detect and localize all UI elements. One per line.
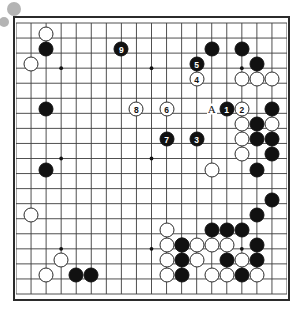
black-stone[interactable] [39, 42, 54, 57]
white-stone[interactable] [189, 237, 204, 252]
black-stone[interactable] [249, 132, 264, 147]
white-stone[interactable] [234, 117, 249, 132]
white-stone[interactable] [234, 147, 249, 162]
go-board[interactable]: 123456789A [16, 19, 287, 298]
black-stone[interactable] [174, 237, 189, 252]
white-stone[interactable] [249, 267, 264, 282]
white-stone[interactable] [24, 57, 39, 72]
black-stone[interactable] [249, 207, 264, 222]
white-stone[interactable] [204, 267, 219, 282]
white-stone[interactable] [159, 237, 174, 252]
black-stone[interactable] [204, 222, 219, 237]
white-stone[interactable] [189, 252, 204, 267]
black-stone[interactable] [249, 237, 264, 252]
black-stone[interactable] [249, 252, 264, 267]
black-stone[interactable] [39, 102, 54, 117]
black-stone[interactable] [84, 267, 99, 282]
white-stone[interactable] [159, 267, 174, 282]
black-stone[interactable] [264, 132, 279, 147]
move-stone-8[interactable]: 8 [129, 102, 144, 117]
white-stone[interactable] [234, 132, 249, 147]
captured-stone-2 [0, 17, 9, 27]
white-stone[interactable] [234, 252, 249, 267]
black-stone[interactable] [69, 267, 84, 282]
white-stone[interactable] [264, 117, 279, 132]
white-stone[interactable] [159, 252, 174, 267]
move-stone-9[interactable]: 9 [114, 42, 129, 57]
black-stone[interactable] [249, 57, 264, 72]
black-stone[interactable] [234, 222, 249, 237]
white-stone[interactable] [39, 267, 54, 282]
white-stone[interactable] [204, 162, 219, 177]
move-stone-7[interactable]: 7 [159, 132, 174, 147]
move-stone-4[interactable]: 4 [189, 72, 204, 87]
black-stone[interactable] [234, 42, 249, 57]
white-stone[interactable] [264, 72, 279, 87]
white-stone[interactable] [249, 72, 264, 87]
white-stone[interactable] [219, 267, 234, 282]
move-stone-1[interactable]: 1 [219, 102, 234, 117]
white-stone[interactable] [159, 222, 174, 237]
move-stone-2[interactable]: 2 [234, 102, 249, 117]
black-stone[interactable] [234, 267, 249, 282]
move-stone-3[interactable]: 3 [189, 132, 204, 147]
black-stone[interactable] [249, 162, 264, 177]
captured-stone-1 [7, 2, 21, 16]
black-stone[interactable] [219, 222, 234, 237]
black-stone[interactable] [249, 117, 264, 132]
move-stone-5[interactable]: 5 [189, 57, 204, 72]
white-stone[interactable] [204, 237, 219, 252]
white-stone[interactable] [219, 237, 234, 252]
black-stone[interactable] [264, 102, 279, 117]
black-stone[interactable] [174, 267, 189, 282]
black-stone[interactable] [204, 42, 219, 57]
white-stone[interactable] [39, 27, 54, 42]
black-stone[interactable] [219, 252, 234, 267]
black-stone[interactable] [39, 162, 54, 177]
white-stone[interactable] [234, 72, 249, 87]
move-stone-6[interactable]: 6 [159, 102, 174, 117]
black-stone[interactable] [264, 147, 279, 162]
black-stone[interactable] [264, 192, 279, 207]
white-stone[interactable] [24, 207, 39, 222]
board-mark-a: A [207, 104, 217, 115]
go-board-diagram: 123456789A [0, 0, 303, 316]
black-stone[interactable] [174, 252, 189, 267]
white-stone[interactable] [54, 252, 69, 267]
